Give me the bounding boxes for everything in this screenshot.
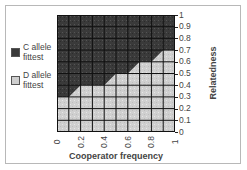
y-tick-label: 0.2 bbox=[179, 104, 191, 113]
y-tick-mark bbox=[175, 74, 178, 75]
x-tick-label: 0 bbox=[52, 140, 62, 145]
y-tick-mark bbox=[175, 50, 178, 51]
y-tick-mark bbox=[175, 15, 178, 16]
legend: C allele fittest D allele fittest bbox=[9, 42, 59, 98]
y-tick-label: 0 bbox=[179, 128, 184, 137]
x-tick-label: 1 bbox=[170, 140, 180, 145]
y-tick-label: 0.4 bbox=[179, 81, 191, 90]
legend-swatch-d bbox=[11, 76, 20, 85]
x-tick-label: 0.8 bbox=[146, 136, 156, 148]
y-tick-mark bbox=[175, 38, 178, 39]
y-tick-label: 0.6 bbox=[179, 57, 191, 66]
legend-item-c-allele: C allele fittest bbox=[9, 42, 59, 70]
y-tick-label: 1 bbox=[179, 11, 184, 20]
y-tick-label: 0.1 bbox=[179, 116, 191, 125]
plot-area bbox=[57, 15, 175, 132]
y-tick-label: 0.7 bbox=[179, 46, 191, 55]
y-tick-label: 0.9 bbox=[179, 22, 191, 31]
legend-swatch-c bbox=[11, 48, 20, 57]
x-tick-label: 0.2 bbox=[76, 136, 86, 148]
y-tick-mark bbox=[175, 27, 178, 28]
y-tick-mark bbox=[175, 62, 178, 63]
y-tick-label: 0.3 bbox=[179, 92, 191, 101]
y-tick-mark bbox=[175, 97, 178, 98]
legend-item-d-allele: D allele fittest bbox=[9, 70, 59, 98]
y-tick-label: 0.5 bbox=[179, 69, 191, 78]
heatmap-svg bbox=[57, 15, 175, 132]
y-tick-mark bbox=[175, 109, 178, 110]
y-tick-mark bbox=[175, 132, 178, 133]
x-axis-label: Cooperator frequency bbox=[69, 151, 163, 161]
y-axis-label: Relatedness bbox=[208, 46, 218, 99]
x-tick-label: 0.4 bbox=[99, 136, 109, 148]
y-tick-mark bbox=[175, 85, 178, 86]
x-tick-label: 0.6 bbox=[123, 136, 133, 148]
y-tick-mark bbox=[175, 120, 178, 121]
y-tick-label: 0.8 bbox=[179, 34, 191, 43]
